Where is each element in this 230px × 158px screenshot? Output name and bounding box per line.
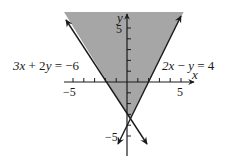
- equation-label-left: 3x + 2y = −6: [12, 58, 80, 73]
- equation-label-right: 2x − y = 4: [162, 58, 215, 73]
- tick-label-y-neg5: −5: [105, 130, 118, 144]
- tick-label-x-5: 5: [177, 85, 183, 99]
- tick-label-y-5: 5: [116, 22, 122, 36]
- inequality-graph: y x 5 −5 −5 5 3x + 2y = −6 2x − y = 4: [0, 0, 230, 158]
- tick-label-x-neg5: −5: [63, 85, 76, 99]
